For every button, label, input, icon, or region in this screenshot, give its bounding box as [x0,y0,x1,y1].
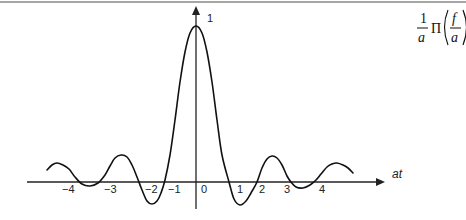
formula-label: 1 a Π f a [417,10,466,45]
formula-left-paren [445,10,449,45]
formula-operator: Π [431,21,441,36]
tick-label: 3 [284,183,290,195]
tick-label: 2 [259,183,265,195]
tick-label: 1 [237,183,243,195]
sinc-curve [47,26,353,205]
x-axis-arrow-icon [376,178,385,186]
x-tick-labels: −4 −3 −2 −1 0 1 2 3 4 [62,183,325,195]
y-peak-label: 1 [207,12,213,24]
tick-label: −3 [104,183,117,195]
tick-label: −4 [62,183,75,195]
y-axis-arrow-icon [192,6,200,15]
formula-arg-numerator: f [452,11,458,26]
formula-arg-denominator: a [451,30,458,45]
tick-label: −1 [168,183,181,195]
tick-label: −2 [145,183,158,195]
tick-label: 4 [319,183,325,195]
sinc-figure: at 1 −4 −3 −2 −1 0 1 2 3 4 1 a Π f a [0,0,466,220]
formula-numerator: 1 [420,11,427,26]
tick-label: 0 [201,183,207,195]
formula-denominator: a [418,30,425,45]
x-axis-label: at [392,167,403,181]
